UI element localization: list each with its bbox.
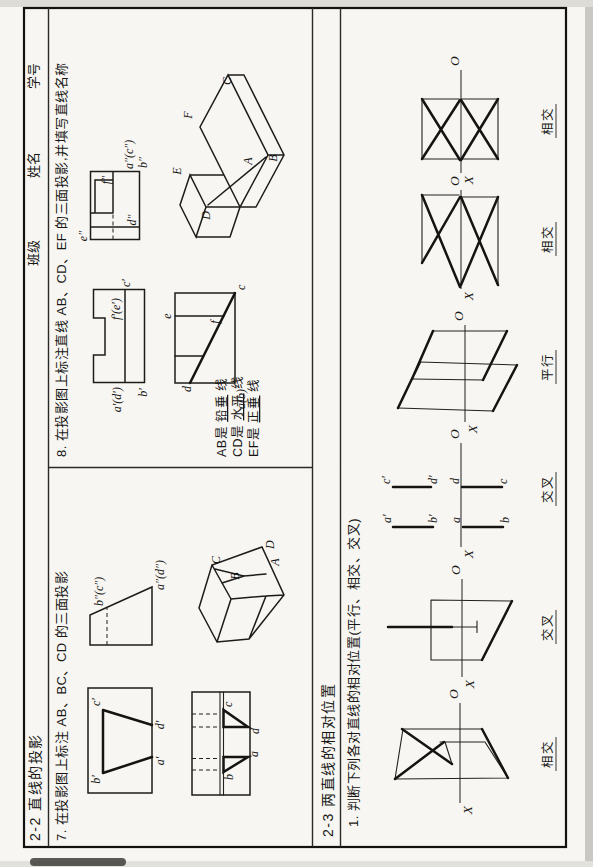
fig3-label-a: a xyxy=(449,517,463,523)
q8-side-label-f: f″ xyxy=(99,175,113,184)
q8-axon-label-B: B xyxy=(266,154,280,162)
relpos-figure-5: X O 相交 xyxy=(422,176,556,301)
section-2-3-title: 2-3 两直线的相对位置 xyxy=(320,683,336,837)
scan-shadow-strip xyxy=(585,0,593,867)
fig3-label-b: b xyxy=(498,517,512,523)
q7-top-view: b a c d xyxy=(192,692,262,795)
q8-answer-row-2: CD是水平线 xyxy=(231,376,245,457)
q7-front-label-c: c′ xyxy=(89,698,103,706)
answer-5: 相交 xyxy=(540,225,555,253)
figure-1-thick-lines xyxy=(395,729,508,779)
q7-side-label-ad: a″(d″) xyxy=(153,560,167,590)
rule-lines xyxy=(49,8,341,847)
header-row: 2-2 直线的投影 班级 姓名 学号 xyxy=(26,62,43,841)
q8-front-label-ad: a′(d′) xyxy=(110,387,124,412)
axis-o-label: O xyxy=(447,176,462,186)
answer-2: 交叉 xyxy=(540,613,555,641)
q8-top-label-c: c xyxy=(234,284,248,290)
q7-top-label-a: a xyxy=(247,751,261,757)
q7-front-label-a: a′ xyxy=(153,756,167,765)
q8-side-outline xyxy=(91,172,140,240)
q8-side-label-ac: a″(c″) xyxy=(122,140,136,169)
q8-top-outline xyxy=(175,293,235,383)
q7-top-label-c: c xyxy=(221,701,235,707)
figure-4-thick-lines xyxy=(398,331,517,411)
q7-top-label-b: b xyxy=(222,774,236,780)
figure-5-thin-lines xyxy=(422,195,498,285)
q8-answer-2-value: 水平 xyxy=(231,393,245,420)
figure-3-segments xyxy=(393,487,503,527)
axis-x-label: X xyxy=(460,805,475,815)
q8-side-label-b: b″ xyxy=(136,156,150,168)
relpos-figure-1: X O 相交 xyxy=(395,689,556,815)
q8-front-label-fe: f′(e′) xyxy=(109,298,123,320)
q7-top-outline xyxy=(192,692,250,795)
axis-x-label: X xyxy=(465,424,480,434)
figure-5-thick-lines xyxy=(422,195,498,287)
axis-o-label: O xyxy=(446,689,461,699)
q8-axon-label-D: D xyxy=(199,211,213,221)
figure-2-thick-lines xyxy=(388,601,512,660)
q8-axon-label-E: E xyxy=(170,167,184,176)
axis-x-label: X xyxy=(461,175,476,185)
q8-side-label-e: e″ xyxy=(76,230,90,241)
q8-side-label-d: d″ xyxy=(125,214,139,226)
q7-axon-label-B: B xyxy=(228,572,242,580)
q8-axon-label-A: A xyxy=(241,157,255,166)
sheet-frame xyxy=(24,8,566,847)
q8-answer-3-suffix: 线 xyxy=(247,378,261,392)
axis-o-label: O xyxy=(447,56,462,66)
q7-top-hidden-lines xyxy=(192,714,220,770)
fig3-label-c: c xyxy=(496,478,510,484)
q7-axon-label-D: D xyxy=(263,540,277,550)
page-title: 2-2 直线的投影 xyxy=(27,733,43,841)
axis-o-label: O xyxy=(448,565,463,575)
q7-axon-label-A: A xyxy=(268,558,282,567)
question-8-text: 8. 在投影图上标注直线 AB、CD、EF 的三面投影,并填写直线名称 xyxy=(54,62,69,457)
relpos-figure-3: X O a′ b′ c′ d′ a b d c 交叉 xyxy=(379,429,556,559)
q7-axonometric: C B A D xyxy=(199,540,284,642)
q7-front-label-d: d′ xyxy=(153,720,167,729)
figure-6-thick-lines xyxy=(422,99,498,160)
q8-top-marked-diagonal xyxy=(190,293,235,383)
question-7-text: 7. 在投影图上标注 AB、BC、CD 的三面投影 xyxy=(54,571,69,841)
question-8: 8. 在投影图上标注直线 AB、CD、EF 的三面投影,并填写直线名称 a′(d… xyxy=(54,62,284,457)
q8-answer-2-suffix: 线 xyxy=(231,376,245,390)
axis-x-label: X xyxy=(462,679,477,689)
q8-answer-row-1: AB是铅垂线 xyxy=(215,377,229,457)
q8-front-view: a′(d′) b′ c′ f′(e′) xyxy=(94,279,151,413)
q8-answer-1-prefix: AB是 xyxy=(215,426,229,457)
q8-axon-label-F: F xyxy=(181,111,195,120)
q7-side-label-bc: b″(c″) xyxy=(92,577,106,606)
q8-axonometric: E D F A C B xyxy=(170,75,284,237)
relpos-figure-4: X O 平行 xyxy=(398,311,556,434)
q8-top-label-e: e xyxy=(160,313,174,319)
fig3-label-a1: a′ xyxy=(380,514,394,523)
scan-edge-strip xyxy=(0,0,593,7)
section-2-3-question: 1. 判断下列各对直线的相对位置(平行、相交、交叉) xyxy=(346,518,361,827)
class-label: 班级 xyxy=(26,239,41,266)
q8-top-label-f: f xyxy=(208,319,222,324)
q8-front-label-b: b′ xyxy=(136,388,150,397)
q7-top-label-d: d xyxy=(248,727,262,734)
section-2-3: 2-3 两直线的相对位置 1. 判断下列各对直线的相对位置(平行、相交、交叉) … xyxy=(320,56,556,837)
relpos-figure-2: X O 交叉 xyxy=(388,565,556,689)
q7-front-view: b′ c′ a′ d′ xyxy=(88,688,167,793)
fig3-label-d: d xyxy=(448,477,462,484)
answer-4: 平行 xyxy=(541,353,555,381)
question-7: 7. 在投影图上标注 AB、BC、CD 的三面投影 b′ c′ a′ d′ b″… xyxy=(54,540,284,841)
axis-x-label: X xyxy=(461,549,476,559)
q7-side-view: b″(c″) a″(d″) xyxy=(90,560,167,645)
fig3-label-d1: d′ xyxy=(426,475,440,484)
q8-front-label-c: c′ xyxy=(119,279,133,287)
q8-answer-1-suffix: 线 xyxy=(215,377,229,391)
scan-smudge xyxy=(30,858,126,866)
q7-axon-label-C: C xyxy=(209,555,223,564)
q8-answer-1-value: 铅垂 xyxy=(215,395,229,422)
fig3-label-c1: c′ xyxy=(379,476,393,484)
q8-answer-3-value: 正垂 xyxy=(247,396,261,423)
q8-answer-row-3: EF是正垂线 xyxy=(247,378,261,457)
name-label: 姓名 xyxy=(26,151,41,178)
border-frame xyxy=(24,8,566,847)
answer-1: 相交 xyxy=(540,740,555,768)
